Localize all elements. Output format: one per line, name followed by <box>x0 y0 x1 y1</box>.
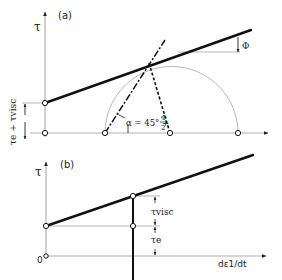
panel-b-bingham-line <box>46 155 253 226</box>
tau-e-label: τe <box>151 235 161 245</box>
panel-a-circle-right-point <box>235 130 240 135</box>
panel-a-y-axis-label: τ <box>34 20 41 34</box>
panel-a-circle-center-point <box>167 130 172 135</box>
panel-b-mid-point <box>130 223 135 228</box>
panel-a-left-annotation: τe + τvisc <box>8 99 18 145</box>
panel-a: τ (a) τe + τvisc α = 45° + Φ 2 Φ <box>8 10 268 145</box>
panel-a-origin-point <box>42 130 47 135</box>
panel-b-intercept-point <box>43 223 48 228</box>
panel-a-label: (a) <box>58 10 72 21</box>
panel-b-x-axis-label: dε1/dt <box>218 259 247 269</box>
diagram-canvas: τ (a) τe + τvisc α = 45° + Φ 2 Φ <box>0 0 282 280</box>
mohr-circle-arc <box>105 67 238 134</box>
panel-b-label: (b) <box>60 159 74 170</box>
panel-b-origin-label: 0 <box>37 255 43 265</box>
panel-a-circle-left-point <box>102 130 107 135</box>
phi-label: Φ <box>242 41 249 51</box>
alpha-pointer <box>117 114 125 118</box>
panel-b-top-point <box>130 193 135 198</box>
alpha-frac-den: 2 <box>161 124 165 132</box>
alpha-frac-num: Φ <box>161 114 167 122</box>
panel-b-y-axis-label: τ <box>35 165 42 179</box>
tau-visc-label: τvisc <box>151 207 174 217</box>
panel-b-origin-point <box>44 254 48 258</box>
panel-b: τ (b) 0 τvisc τe dε1/dt <box>35 155 266 280</box>
panel-a-intercept-point <box>42 100 47 105</box>
